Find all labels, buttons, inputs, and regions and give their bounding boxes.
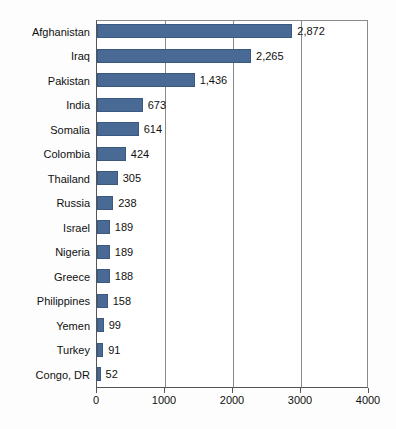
- x-tick-label: 3000: [288, 394, 312, 406]
- bar-row: Nigeria189: [0, 241, 396, 264]
- value-label: 189: [115, 221, 133, 233]
- value-label: 238: [118, 197, 136, 209]
- bar-row: Greece188: [0, 265, 396, 288]
- category-label: Somalia: [0, 124, 90, 136]
- bar[interactable]: [97, 196, 113, 210]
- bar-chart: Afghanistan2,872Iraq2,265Pakistan1,436In…: [0, 0, 396, 429]
- category-label: India: [0, 99, 90, 111]
- category-label: Russia: [0, 197, 90, 209]
- x-tick-label: 0: [93, 394, 99, 406]
- category-label: Yemen: [0, 320, 90, 332]
- category-label: Iraq: [0, 50, 90, 62]
- bar[interactable]: [97, 122, 139, 136]
- value-label: 2,872: [297, 25, 325, 37]
- bar[interactable]: [97, 24, 292, 38]
- value-label: 52: [106, 368, 118, 380]
- x-tick-label: 4000: [356, 394, 380, 406]
- bar[interactable]: [97, 98, 143, 112]
- category-label: Colombia: [0, 148, 90, 160]
- value-label: 158: [113, 295, 131, 307]
- x-tick-2000: [232, 388, 233, 393]
- bar[interactable]: [97, 245, 110, 259]
- bar-row: Turkey91: [0, 339, 396, 362]
- bar-row: Thailand305: [0, 167, 396, 190]
- bar[interactable]: [97, 318, 104, 332]
- category-label: Pakistan: [0, 75, 90, 87]
- value-label: 189: [115, 246, 133, 258]
- bar[interactable]: [97, 220, 110, 234]
- value-label: 614: [144, 123, 162, 135]
- bar-row: Congo, DR52: [0, 363, 396, 386]
- bar[interactable]: [97, 294, 108, 308]
- x-tick-1000: [164, 388, 165, 393]
- category-label: Afghanistan: [0, 26, 90, 38]
- category-label: Nigeria: [0, 246, 90, 258]
- category-label: Thailand: [0, 173, 90, 185]
- x-tick-4000: [368, 388, 369, 393]
- value-label: 188: [115, 270, 133, 282]
- x-tick-3000: [300, 388, 301, 393]
- x-tick-label: 2000: [220, 394, 244, 406]
- category-label: Greece: [0, 271, 90, 283]
- bar[interactable]: [97, 147, 126, 161]
- bar-row: Afghanistan2,872: [0, 20, 396, 43]
- category-label: Turkey: [0, 344, 90, 356]
- value-label: 424: [131, 148, 149, 160]
- bar-row: Iraq2,265: [0, 45, 396, 68]
- bar-row: India673: [0, 94, 396, 117]
- category-label: Israel: [0, 222, 90, 234]
- category-label: Congo, DR: [0, 369, 90, 381]
- bar[interactable]: [97, 171, 118, 185]
- bar[interactable]: [97, 269, 110, 283]
- value-label: 99: [109, 319, 121, 331]
- category-label: Philippines: [0, 295, 90, 307]
- value-label: 2,265: [256, 50, 284, 62]
- bar-row: Colombia424: [0, 143, 396, 166]
- bar-row: Philippines158: [0, 290, 396, 313]
- bar-row: Pakistan1,436: [0, 69, 396, 92]
- bar-row: Somalia614: [0, 118, 396, 141]
- bar-rows: Afghanistan2,872Iraq2,265Pakistan1,436In…: [0, 20, 396, 388]
- bar[interactable]: [97, 367, 101, 381]
- bar[interactable]: [97, 343, 103, 357]
- bar[interactable]: [97, 49, 251, 63]
- bar[interactable]: [97, 73, 195, 87]
- value-label: 305: [123, 172, 141, 184]
- bar-row: Russia238: [0, 192, 396, 215]
- value-label: 91: [108, 344, 120, 356]
- x-tick-label: 1000: [152, 394, 176, 406]
- x-tick-0: [96, 388, 97, 393]
- value-label: 673: [148, 99, 166, 111]
- value-label: 1,436: [200, 74, 228, 86]
- bar-row: Israel189: [0, 216, 396, 239]
- bar-row: Yemen99: [0, 314, 396, 337]
